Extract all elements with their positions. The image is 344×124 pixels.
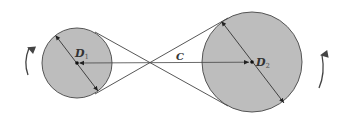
center-point-d1 [75,61,79,65]
rotation-arrow-left-icon [26,48,29,75]
center-point-d2 [250,60,254,64]
rotation-arrow-right-icon [319,55,323,88]
label-center-distance: C [176,51,184,62]
crossed-belt-diagram: D1 D2 C [0,0,344,124]
